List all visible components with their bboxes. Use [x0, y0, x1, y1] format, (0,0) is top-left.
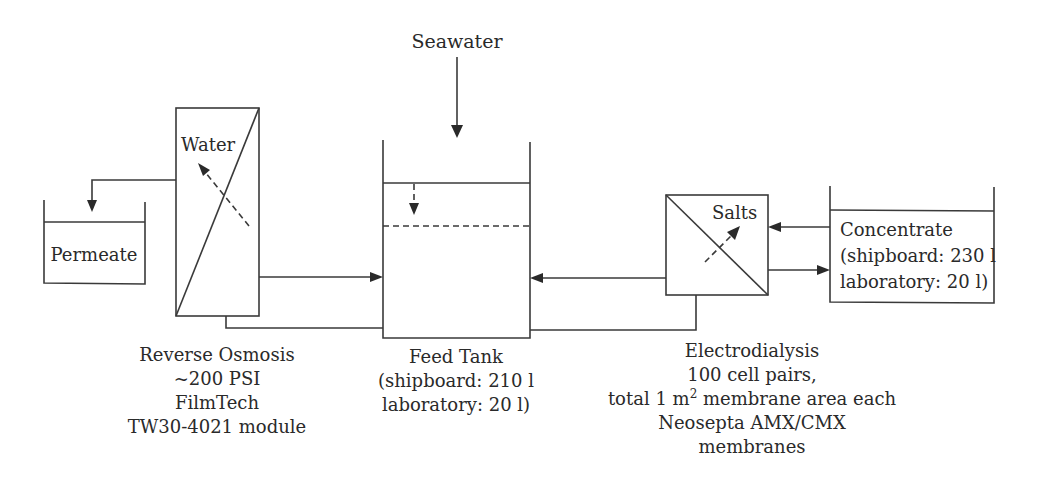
ed-title: Electrodialysis: [685, 340, 819, 361]
feed-to-ro-pipe: [226, 316, 383, 328]
ed-to-feed-pipe: [530, 273, 666, 283]
ed-membranes-type: Neosepta AMX/CMX: [658, 412, 846, 433]
ro-module: TW30-4021 module: [128, 416, 306, 437]
feed-tank-shipboard: (shipboard: 210 l: [378, 370, 534, 391]
ed-membrane-area: total 1 m2 membrane area each: [608, 387, 897, 409]
ro-water-flow-line: [205, 172, 249, 226]
ro-to-feed-pipe: [259, 272, 383, 282]
feed-tank-laboratory: laboratory: 20 l): [382, 394, 530, 415]
ed-salts-label: Salts: [712, 202, 757, 223]
permeate-tank-walls: [44, 200, 145, 284]
ro-manufacturer: FilmTech: [175, 392, 259, 413]
ed-membranes-word: membranes: [698, 436, 805, 457]
feed-tank-walls: [383, 140, 530, 338]
concentrate-title: Concentrate: [840, 219, 953, 240]
ro-title: Reverse Osmosis: [139, 344, 294, 365]
seawater-arrow-head-icon: [451, 125, 463, 138]
ed-to-concentrate-pipe: [768, 265, 830, 275]
concentrate-to-ed-pipe: [768, 222, 830, 232]
permeate-label: Permeate: [51, 244, 138, 265]
feed-tank: Feed Tank (shipboard: 210 l laboratory: …: [378, 140, 534, 415]
permeate-tank: Permeate: [44, 200, 145, 284]
permeate-pipe-line: [92, 180, 176, 203]
concentrate-out-arrow-head-icon: [768, 222, 781, 232]
concentrate-water-level: [830, 210, 994, 211]
ed-return-arrow-head-icon: [530, 273, 543, 283]
reverse-osmosis-module: Water Reverse Osmosis ~200 PSI FilmTech …: [128, 108, 306, 437]
seawater-input: Seawater: [411, 30, 503, 138]
concentrate-laboratory: laboratory: 20 l): [840, 271, 988, 292]
ro-water-flow-arrow-head-icon: [198, 163, 210, 176]
ro-to-permeate-pipe: [87, 180, 176, 212]
concentrate-in-arrow-head-icon: [817, 265, 830, 275]
ro-return-arrow-head-icon: [370, 272, 383, 282]
ro-water-label: Water: [181, 134, 236, 155]
level-drop-arrow-head-icon: [409, 203, 419, 215]
ed-cell-pairs: 100 cell pairs,: [687, 364, 817, 385]
concentrate-tank: Concentrate (shipboard: 230 l laboratory…: [830, 186, 996, 303]
seawater-label: Seawater: [411, 30, 503, 52]
ro-pressure: ~200 PSI: [174, 368, 261, 389]
ed-salts-flow-line: [705, 236, 731, 262]
permeate-arrow-head-icon: [87, 200, 97, 212]
concentrate-shipboard: (shipboard: 230 l: [840, 245, 996, 266]
feed-tank-title: Feed Tank: [409, 346, 504, 367]
feed-to-ed-pipe: [530, 295, 696, 330]
process-diagram: Seawater Feed Tank (shipboard: 210 l lab…: [0, 0, 1045, 483]
